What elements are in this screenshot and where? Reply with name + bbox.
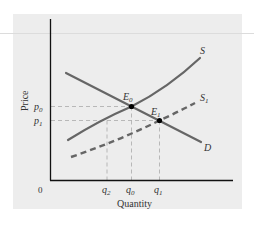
supply-curve xyxy=(68,58,200,140)
p0-label: p0 xyxy=(33,101,43,114)
q0-label: q0 xyxy=(126,184,135,197)
supply-demand-diagram: S S1 D E0 E1 p0 p1 q2 q0 q1 0 Quanti xyxy=(0,0,254,229)
equilibrium-point-e0 xyxy=(129,104,134,109)
supply-label: S xyxy=(200,45,205,56)
p1-label: p1 xyxy=(33,115,43,128)
q2-label: q2 xyxy=(102,184,111,197)
q1-label: q1 xyxy=(154,184,163,197)
origin-label: 0 xyxy=(38,185,43,195)
guide-lines xyxy=(51,107,160,181)
figure: S S1 D E0 E1 p0 p1 q2 q0 q1 0 Quanti xyxy=(0,0,254,229)
supply-shifted-label: S1 xyxy=(200,92,209,105)
y-axis-label: Price xyxy=(19,90,30,111)
demand-label: D xyxy=(203,142,212,153)
x-axis-label: Quantity xyxy=(117,198,152,209)
